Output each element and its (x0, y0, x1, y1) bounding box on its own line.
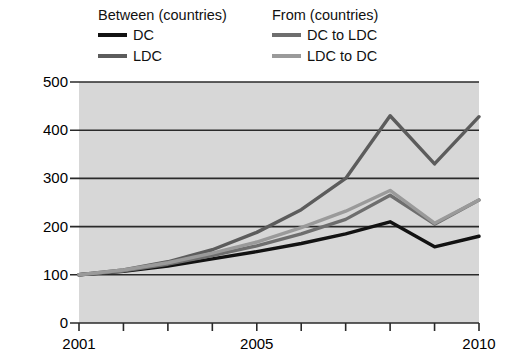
x-tick-label: 2010 (462, 336, 495, 351)
chart-figure: Between (countries) DC LDC From (countri… (0, 0, 512, 362)
plot-background (79, 82, 479, 323)
x-tick-label: 2001 (62, 336, 95, 351)
x-tick-label: 2005 (240, 336, 273, 351)
plot-area (0, 0, 512, 362)
